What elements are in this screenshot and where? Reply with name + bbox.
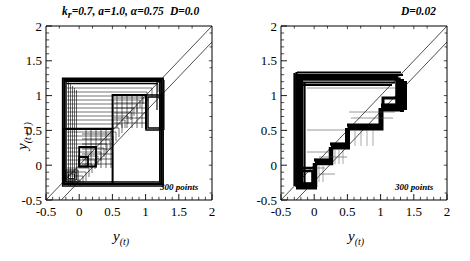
svg-text:2: 2: [444, 204, 451, 219]
svg-text:-0.5: -0.5: [256, 193, 277, 208]
svg-text:2: 2: [36, 19, 43, 34]
svg-text:0: 0: [76, 204, 83, 219]
x-tick-labels-left: -0.5 0 0.5 1 1.5 2: [36, 204, 216, 219]
figure-title: kr=0.7, a=1.0, α=0.75: [62, 5, 164, 20]
cobweb-orbit-right: [295, 72, 406, 188]
svg-text:1.5: 1.5: [406, 204, 422, 219]
panel-right: -0.5 0 0.5 1 1.5 2 -0.5 0 0.5 1 1.5 2 D=…: [235, 0, 470, 261]
svg-text:0.5: 0.5: [104, 204, 120, 219]
identity-line: [281, 26, 447, 200]
panel-right-x-axis-title: y(t): [348, 228, 364, 247]
svg-text:1: 1: [377, 204, 384, 219]
y-tick-labels-left: -0.5 0 0.5 1 1.5 2: [21, 19, 42, 208]
panel-left-x-axis-title: y(t): [113, 228, 129, 247]
svg-text:2: 2: [209, 204, 216, 219]
svg-text:1.5: 1.5: [261, 53, 277, 68]
svg-text:1.5: 1.5: [26, 53, 42, 68]
panel-right-plot: -0.5 0 0.5 1 1.5 2 -0.5 0 0.5 1 1.5 2: [235, 0, 470, 261]
figure-canvas: -0.5 0 0.5 1 1.5 2 -0.5 0 0.5 1 1.5 2 kr…: [0, 0, 470, 261]
y-tick-labels-right: -0.5 0 0.5 1 1.5 2: [256, 19, 277, 208]
svg-text:1: 1: [36, 88, 43, 103]
svg-text:0.5: 0.5: [339, 204, 355, 219]
panel-right-points-label: 300 points: [395, 182, 433, 192]
svg-text:-0.5: -0.5: [21, 193, 42, 208]
x-tick-labels-right: -0.5 0 0.5 1 1.5 2: [271, 204, 451, 219]
panel-left-d-label: D=0.0: [170, 5, 199, 17]
svg-text:0: 0: [36, 158, 43, 173]
svg-text:1: 1: [142, 204, 149, 219]
svg-text:0: 0: [271, 158, 278, 173]
panel-right-d-label: D=0.02: [401, 5, 436, 17]
panel-left-plot: -0.5 0 0.5 1 1.5 2 -0.5 0 0.5 1 1.5 2: [0, 0, 235, 261]
svg-text:1: 1: [271, 88, 278, 103]
panel-left-points-label: 300 points: [160, 182, 198, 192]
svg-text:2: 2: [271, 19, 278, 34]
svg-text:0: 0: [311, 204, 318, 219]
svg-text:1.5: 1.5: [171, 204, 187, 219]
panel-left: -0.5 0 0.5 1 1.5 2 -0.5 0 0.5 1 1.5 2 kr…: [0, 0, 235, 261]
cobweb-orbit-left: [63, 78, 164, 186]
map-branch-line: [61, 42, 212, 200]
panel-left-y-axis-title: y(t+1): [14, 122, 33, 150]
svg-text:0.5: 0.5: [261, 123, 277, 138]
